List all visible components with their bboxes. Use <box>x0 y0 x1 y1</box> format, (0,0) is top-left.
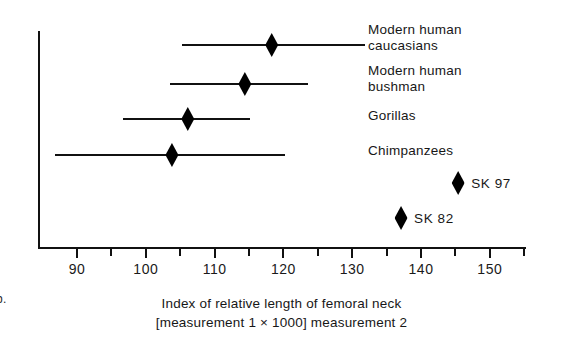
specimen-diamond-marker <box>395 206 408 230</box>
x-axis-tick <box>386 249 388 256</box>
x-axis-tick <box>179 249 181 256</box>
specimen-diamond-marker <box>452 171 465 195</box>
x-axis-tick <box>110 249 112 256</box>
x-axis-tick-label: 110 <box>203 261 227 277</box>
mean-diamond-marker <box>238 72 251 96</box>
category-label: Gorillas <box>368 108 416 124</box>
x-axis-tick <box>214 249 216 258</box>
mean-diamond-marker <box>265 33 278 57</box>
x-axis-caption: Index of relative length of femoral neck… <box>0 294 563 332</box>
category-label: Chimpanzees <box>368 143 453 159</box>
x-axis-tick <box>420 249 422 258</box>
mean-diamond-marker <box>165 143 178 167</box>
x-axis-tick-label: 140 <box>409 261 434 277</box>
category-label: Modern human bushman <box>368 63 462 95</box>
femoral-neck-index-chart: b. 90100110120130140150 Modern human cau… <box>0 0 563 349</box>
x-axis-caption-line-1: Index of relative length of femoral neck <box>0 294 563 313</box>
x-axis-tick <box>454 249 456 256</box>
specimen-label: SK 82 <box>414 211 454 226</box>
specimen-label: SK 97 <box>471 176 511 191</box>
x-axis-tick-label: 90 <box>69 261 86 277</box>
y-axis-line <box>38 31 40 249</box>
x-axis-caption-line-2: [measurement 1 × 1000] measurement 2 <box>0 313 563 332</box>
x-axis-tick <box>523 249 525 256</box>
x-axis-tick <box>489 249 491 258</box>
x-axis-tick-label: 100 <box>133 261 158 277</box>
x-axis-tick <box>282 249 284 258</box>
x-axis-tick <box>145 249 147 258</box>
x-axis-tick-label: 150 <box>477 261 502 277</box>
x-axis-tick-label: 120 <box>271 261 296 277</box>
category-label: Modern human caucasians <box>368 22 462 54</box>
x-axis-tick-label: 130 <box>340 261 365 277</box>
x-axis-tick <box>351 249 353 258</box>
x-axis-tick <box>248 249 250 256</box>
x-axis-tick <box>317 249 319 256</box>
x-axis-tick <box>76 249 78 258</box>
mean-diamond-marker <box>181 107 194 131</box>
